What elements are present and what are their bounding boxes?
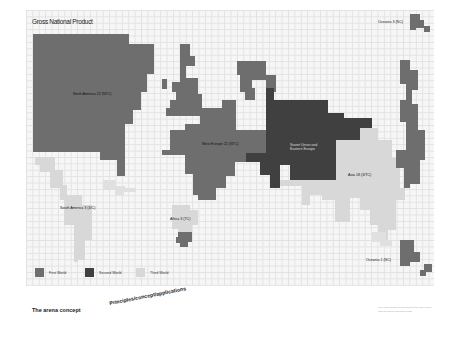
legend-third-world: Third World [136, 268, 169, 277]
region-japan [396, 60, 425, 188]
label-south-america: South America 3 (4/C) [60, 206, 95, 210]
legend-swatch [136, 268, 145, 277]
footer-caption: Fine print caption text describing the m… [378, 306, 434, 313]
legend-label: Third World [150, 271, 169, 275]
label-north-america: North America 22 (NTC) [73, 92, 112, 96]
region-oceania-bottom [400, 240, 420, 266]
legend-label: First World [49, 271, 66, 275]
cartogram-map [0, 0, 460, 343]
label-oceania-bottom: Oceania 1 (NC) [366, 258, 391, 262]
region-caribbean [103, 180, 136, 195]
region-north-america [33, 34, 154, 176]
legend-second-world: Second World [85, 268, 122, 277]
legend-swatch [35, 268, 44, 277]
footer-title: The arena concept [32, 307, 81, 313]
label-oceania-top: Oceania 3 (NC) [378, 20, 403, 24]
label-asia: Asia 18 (3/TC) [348, 173, 371, 177]
region-british-isles [166, 44, 202, 116]
region-indonesia [372, 232, 392, 246]
label-west-europe: West Europe 22 (NTC) [202, 142, 238, 146]
region-oceania-top [410, 14, 424, 30]
region-south-africa [176, 232, 192, 247]
region-nz [420, 264, 432, 276]
label-second-world: Soviet Union and Eastern Europe [290, 143, 326, 151]
region-oceania-top-small [424, 26, 430, 32]
region-ireland [162, 79, 167, 89]
legend-swatch [85, 268, 94, 277]
legend-first-world: First World [35, 268, 66, 277]
legend-label: Second World [99, 271, 122, 275]
label-africa: Africa 3 (TC) [170, 217, 190, 221]
